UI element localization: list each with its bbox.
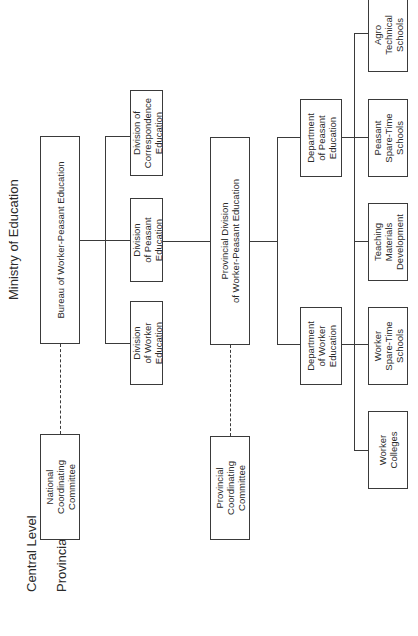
central-level-label: Central Level bbox=[24, 515, 39, 592]
division-peasant-box: Division of Peasant Education bbox=[130, 198, 163, 282]
provincial-connector bbox=[250, 241, 277, 242]
connector-dept-worker bbox=[277, 344, 300, 345]
ministry-title: Ministry of Education bbox=[6, 179, 21, 300]
department-worker-box: Department of Worker Education bbox=[300, 307, 342, 385]
dept-worker-out bbox=[342, 344, 368, 345]
national-coordinating-label: National Coordinating Committee bbox=[44, 460, 77, 514]
worker-colleges-label: Worker Colleges bbox=[377, 432, 399, 469]
dept-peasant-out bbox=[342, 137, 368, 138]
bureau-connector bbox=[80, 240, 105, 241]
connector-peasant-div bbox=[105, 240, 130, 241]
bureau-box: Bureau of Worker-Peasant Education bbox=[40, 136, 80, 344]
department-spine bbox=[277, 137, 278, 345]
division-peasant-label: Division of Peasant Education bbox=[130, 217, 163, 262]
worker-spare-time-label: Worker Spare-Time Schools bbox=[372, 321, 405, 370]
division-worker-box: Division of Worker Education bbox=[130, 301, 163, 385]
connector-agro bbox=[354, 33, 368, 34]
provincial-division-box: Provincial Division of Worker-Peasant Ed… bbox=[210, 137, 250, 345]
peasant-spare-time-label: Peasant Spare-Time Schools bbox=[372, 113, 405, 162]
connector-teaching bbox=[354, 241, 368, 242]
teaching-materials-box: Teaching Materials Development bbox=[368, 203, 408, 281]
connector-worker-div bbox=[105, 343, 130, 344]
national-dashed-link bbox=[60, 344, 61, 434]
peasant-spare-time-box: Peasant Spare-Time Schools bbox=[368, 99, 408, 177]
department-peasant-label: Department of Peasant Education bbox=[305, 113, 338, 163]
provincial-coordinating-label: Provincial Coordinating Committee bbox=[214, 461, 247, 515]
agro-technical-box: Agro Technical Schools bbox=[368, 0, 408, 72]
department-peasant-box: Department of Peasant Education bbox=[300, 99, 342, 177]
national-coordinating-box: National Coordinating Committee bbox=[40, 434, 80, 540]
agro-technical-label: Agro Technical Schools bbox=[372, 15, 405, 55]
department-worker-label: Department of Worker Education bbox=[305, 321, 338, 371]
connector-correspondence bbox=[105, 136, 130, 137]
bureau-label: Bureau of Worker-Peasant Education bbox=[55, 161, 66, 318]
division-worker-label: Division of Worker Education bbox=[130, 322, 163, 364]
teaching-materials-label: Teaching Materials Development bbox=[372, 214, 405, 270]
connector-colleges bbox=[354, 450, 368, 451]
provincial-dashed-link bbox=[230, 345, 231, 436]
worker-spare-time-box: Worker Spare-Time Schools bbox=[368, 307, 408, 385]
division-correspondence-box: Division of Correspondence Education bbox=[130, 90, 163, 176]
provincial-coordinating-box: Provincial Coordinating Committee bbox=[210, 436, 250, 540]
provincial-division-label: Provincial Division of Worker-Peasant Ed… bbox=[219, 179, 241, 303]
worker-colleges-box: Worker Colleges bbox=[368, 411, 408, 489]
division-correspondence-label: Division of Correspondence Education bbox=[130, 98, 163, 168]
central-provincial-connector bbox=[163, 241, 210, 242]
connector-dept-peasant bbox=[277, 137, 300, 138]
